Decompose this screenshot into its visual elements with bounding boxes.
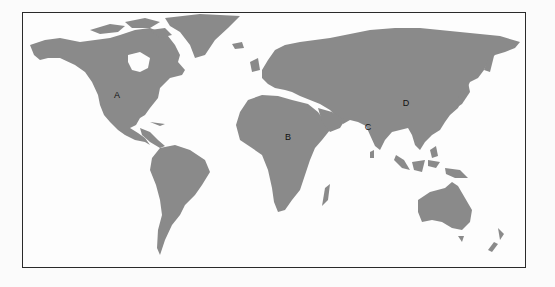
north-america — [30, 28, 185, 145]
map-label-d: D — [403, 99, 410, 108]
map-label-c: C — [365, 123, 372, 132]
world-map — [0, 0, 555, 287]
map-label-b: B — [285, 133, 291, 142]
africa — [236, 95, 330, 212]
south-america — [150, 145, 210, 255]
australia — [418, 182, 472, 230]
map-label-a: A — [114, 91, 120, 100]
